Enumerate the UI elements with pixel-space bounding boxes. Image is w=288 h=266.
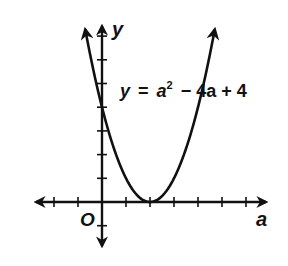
parabola-curve bbox=[85, 29, 215, 202]
equation-base: a bbox=[157, 81, 167, 101]
equation-rest: − 4a + 4 bbox=[181, 81, 247, 101]
equation-equals: = bbox=[138, 81, 149, 101]
parabola-graph: y a O y = a2 − 4a + 4 bbox=[0, 0, 288, 266]
origin-label: O bbox=[80, 209, 95, 230]
equation-label: y = a2 − 4a + 4 bbox=[119, 73, 247, 101]
a-axis-label: a bbox=[256, 208, 267, 230]
y-axis-label: y bbox=[111, 18, 124, 40]
equation-lhs: y bbox=[119, 81, 131, 101]
equation-exponent: 2 bbox=[167, 79, 173, 91]
